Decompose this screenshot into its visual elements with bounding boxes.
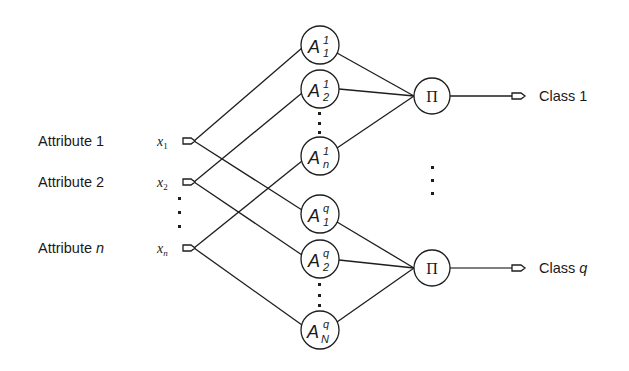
attribute-label-2: Attribute 2: [38, 174, 104, 190]
svg-text:A: A: [306, 322, 319, 342]
svg-text:A: A: [307, 81, 320, 101]
input-connector-x1: [183, 138, 195, 144]
edge-xn-ANq: [194, 248, 302, 325]
membership-layer-class-q: A q 1 A q 2 A q N: [301, 195, 339, 349]
edge-ANq-pi2: [337, 268, 414, 322]
input-ellipsis: [178, 197, 181, 228]
edge-x2-A2q: [194, 182, 302, 255]
membership-layer-class-1: A 1 1 A 1 2 A 1 n: [301, 26, 339, 175]
membership-ellipsis-class-q: [318, 283, 321, 307]
svg-text:q: q: [323, 318, 330, 330]
pi-symbol: Π: [426, 260, 438, 277]
edge-x2-A21: [194, 93, 302, 182]
input-var-x1: x1: [156, 134, 168, 151]
svg-text:1: 1: [323, 216, 329, 228]
input-1: Attribute 1 x1: [38, 133, 195, 151]
svg-text:N: N: [321, 333, 329, 345]
input-2: Attribute 2 x2: [38, 174, 195, 192]
membership-ellipsis-class-1: [318, 112, 321, 134]
svg-text:A: A: [307, 148, 320, 168]
input-var-x2: x2: [156, 175, 168, 192]
class-label-q: Class q: [539, 260, 587, 276]
input-connector-x2: [183, 179, 195, 185]
class-label-1: Class 1: [539, 88, 587, 104]
svg-text:1: 1: [323, 145, 329, 157]
membership-node-An-1: A 1 n: [301, 137, 339, 175]
output-layer: Class 1 Class q: [539, 88, 587, 276]
edge-x1-A11: [194, 48, 302, 141]
ellipsis-dot: [178, 211, 181, 214]
ellipsis-dot: [178, 197, 181, 200]
product-layer: Π Π: [414, 78, 450, 286]
input-layer: Attribute 1 x1 Attribute 2 x2 Attribute …: [38, 133, 195, 258]
product-ellipsis: [431, 166, 434, 195]
svg-text:A: A: [307, 37, 320, 57]
input-var-xn: xn: [156, 241, 168, 258]
output-edges: [450, 93, 525, 271]
membership-node-A2-1: A 1 2: [301, 70, 339, 108]
attribute-label-1: Attribute 1: [38, 133, 104, 149]
svg-text:1: 1: [323, 78, 329, 90]
pi-symbol: Π: [426, 88, 438, 105]
edge-xn-An1: [194, 161, 302, 248]
svg-text:q: q: [323, 202, 330, 214]
svg-text:A: A: [307, 251, 320, 271]
edge-An1-pi1: [337, 96, 414, 148]
svg-text:1: 1: [323, 34, 329, 46]
membership-node-A1-1: A 1 1: [301, 26, 339, 64]
svg-text:q: q: [323, 247, 330, 259]
input-n: Attribute n xn: [38, 240, 195, 258]
input-edges: [194, 48, 302, 325]
rule-edges: [337, 53, 414, 322]
input-connector-xn: [183, 245, 195, 251]
product-node-class-1: Π: [414, 78, 450, 114]
membership-node-AN-q: A q N: [301, 311, 339, 349]
svg-text:2: 2: [322, 261, 329, 273]
membership-node-A1-q: A q 1: [301, 195, 339, 233]
ellipsis-dot: [178, 225, 181, 228]
svg-text:1: 1: [323, 47, 329, 59]
edge-x1-A1q: [194, 141, 302, 210]
membership-node-A2-q: A q 2: [301, 240, 339, 278]
attribute-label-n: Attribute n: [38, 240, 104, 256]
product-node-class-q: Π: [414, 250, 450, 286]
fuzzy-classifier-network-diagram: Attribute 1 x1 Attribute 2 x2 Attribute …: [0, 0, 629, 371]
svg-text:A: A: [307, 206, 320, 226]
svg-text:n: n: [323, 158, 329, 170]
output-arrow-class1: [512, 93, 525, 99]
output-arrow-classq: [512, 265, 525, 271]
svg-text:2: 2: [322, 91, 329, 103]
